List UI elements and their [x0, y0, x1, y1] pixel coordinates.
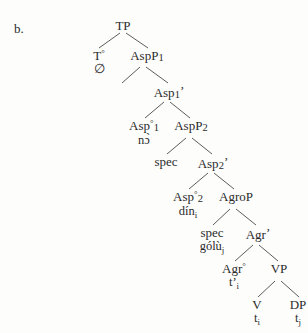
degree-marker: °	[242, 261, 246, 271]
node-spec-3-label: spec	[200, 226, 225, 240]
node-asp1-bar: Asp1’	[154, 84, 185, 100]
coindex-subscript: j	[222, 245, 225, 255]
trace-subscript: i	[257, 317, 260, 327]
node-v-head-label: V	[252, 298, 261, 312]
node-asp1-head-index: 1	[154, 122, 159, 133]
node-agr-head-label: Agr°	[222, 262, 246, 276]
node-spec-2-label: spec	[154, 155, 177, 169]
node-asp2-bar-label: Asp2’	[198, 155, 229, 171]
node-spec-2: spec	[154, 155, 177, 169]
node-dp-label: DP	[290, 298, 307, 312]
node-asp1-head-lexical: nɔ̀	[129, 134, 159, 148]
node-t-head-label: T°	[93, 49, 105, 63]
node-tp-label: TP	[115, 19, 130, 33]
node-spec-3-lexical: gólùj	[200, 240, 225, 256]
node-asp1-head: Asp°1 nɔ̀	[129, 119, 159, 147]
node-agr-bar: Agr’	[246, 226, 271, 242]
node-aspp2-label: AspP2	[174, 119, 208, 134]
syntax-tree-figure: b. TP T° ∅ AspP1	[0, 0, 308, 333]
node-v-head-trace: ti	[252, 312, 261, 328]
node-asp1-bar-label: Asp1’	[154, 84, 185, 100]
example-label: b.	[14, 21, 24, 37]
trace-subscript: i	[237, 281, 240, 291]
node-agrop: AgroP	[219, 190, 253, 204]
node-aspp1-index: 1	[158, 52, 163, 63]
coindex-subscript: i	[195, 209, 198, 219]
bar-prime-marker: ’	[224, 154, 228, 169]
node-asp2-head-index: 2	[198, 193, 203, 204]
node-agr-bar-label: Agr’	[246, 226, 271, 242]
node-asp2-head-label: Asp°2	[173, 190, 203, 205]
trace-subscript: j	[298, 317, 301, 327]
node-aspp2-index: 2	[202, 122, 207, 133]
bar-prime-marker: ’	[266, 225, 270, 240]
node-t-head: T° ∅	[93, 49, 105, 77]
node-tp: TP	[115, 19, 130, 33]
node-asp2-head: Asp°2 díni	[173, 190, 203, 220]
node-v-head: V ti	[252, 298, 261, 328]
node-asp1-head-label: Asp°1	[129, 119, 159, 134]
node-agrop-label: AgroP	[219, 190, 253, 204]
node-spec-3: spec gólùj	[200, 226, 225, 256]
node-aspp1-label: AspP1	[130, 49, 164, 64]
node-aspp1: AspP1	[130, 49, 164, 64]
bar-prime-marker: ’	[180, 83, 184, 98]
degree-marker: °	[101, 48, 105, 58]
node-asp2-bar: Asp2’	[198, 155, 229, 171]
node-agr-head-trace: t’i	[222, 276, 246, 292]
node-aspp2: AspP2	[174, 119, 208, 134]
node-dp-trace: tj	[290, 312, 307, 328]
node-vp-label: VP	[271, 262, 288, 276]
node-vp: VP	[271, 262, 288, 276]
node-asp2-head-lexical: díni	[173, 205, 203, 221]
cropped-text-remnant	[0, 0, 308, 7]
node-agr-head: Agr° t’i	[222, 262, 246, 292]
node-t-head-lexical: ∅	[93, 63, 105, 77]
node-dp: DP tj	[290, 298, 307, 328]
